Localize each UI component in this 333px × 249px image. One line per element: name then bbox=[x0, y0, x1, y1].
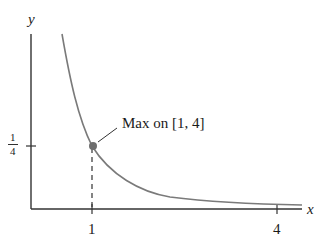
annotation-text: Max on [1, 4] bbox=[122, 115, 205, 131]
max-point bbox=[89, 142, 97, 150]
graph: y x 1 4 1 4 Max on [1, 4] bbox=[0, 0, 333, 249]
y-tick-label-numerator: 1 bbox=[10, 131, 16, 143]
y-tick-label-denominator: 4 bbox=[10, 145, 16, 157]
x-tick-label-4: 4 bbox=[273, 221, 281, 237]
y-axis-label: y bbox=[26, 11, 35, 27]
x-axis-label: x bbox=[306, 201, 314, 217]
annotation-leader bbox=[98, 128, 117, 142]
x-tick-label-1: 1 bbox=[88, 221, 96, 237]
